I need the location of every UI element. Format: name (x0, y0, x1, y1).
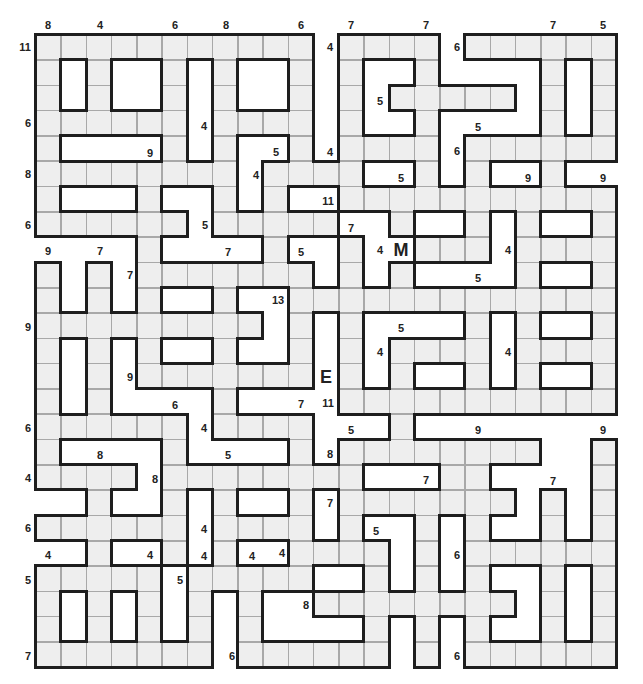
grid-cell[interactable] (465, 389, 491, 415)
grid-cell[interactable] (591, 35, 617, 61)
grid-cell[interactable] (36, 414, 62, 440)
grid-cell[interactable] (238, 465, 264, 491)
grid-cell[interactable] (288, 490, 314, 516)
grid-cell[interactable] (465, 363, 491, 389)
grid-cell[interactable] (212, 186, 238, 212)
grid-cell[interactable] (339, 642, 365, 668)
grid-cell[interactable] (187, 591, 213, 617)
grid-cell[interactable] (591, 591, 617, 617)
grid-cell[interactable] (440, 591, 466, 617)
grid-cell[interactable] (162, 465, 188, 491)
grid-cell[interactable] (187, 566, 213, 592)
grid-cell[interactable] (591, 110, 617, 136)
grid-cell[interactable] (440, 288, 466, 314)
grid-cell[interactable] (339, 35, 365, 61)
grid-cell[interactable] (414, 389, 440, 415)
grid-cell[interactable] (389, 35, 415, 61)
grid-cell[interactable] (414, 60, 440, 86)
grid-cell[interactable] (263, 237, 289, 263)
grid-cell[interactable] (339, 591, 365, 617)
grid-cell[interactable] (263, 262, 289, 288)
grid-cell[interactable] (86, 566, 112, 592)
grid-cell[interactable] (389, 338, 415, 364)
grid-cell[interactable] (162, 262, 188, 288)
grid-cell[interactable] (288, 465, 314, 491)
grid-cell[interactable] (263, 212, 289, 238)
grid-cell[interactable] (591, 490, 617, 516)
grid-cell[interactable] (465, 136, 491, 162)
grid-cell[interactable] (440, 439, 466, 465)
grid-cell[interactable] (238, 515, 264, 541)
grid-cell[interactable] (591, 262, 617, 288)
grid-cell[interactable] (86, 161, 112, 187)
grid-cell[interactable] (566, 237, 592, 263)
grid-cell[interactable] (339, 237, 365, 263)
grid-cell[interactable] (389, 186, 415, 212)
grid-cell[interactable] (212, 414, 238, 440)
grid-cell[interactable] (162, 363, 188, 389)
grid-cell[interactable] (490, 541, 516, 567)
grid-cell[interactable] (212, 338, 238, 364)
grid-cell[interactable] (591, 237, 617, 263)
grid-cell[interactable] (541, 591, 567, 617)
grid-cell[interactable] (364, 288, 390, 314)
grid-cell[interactable] (490, 439, 516, 465)
grid-cell[interactable] (36, 338, 62, 364)
grid-cell[interactable] (389, 414, 415, 440)
grid-cell[interactable] (339, 262, 365, 288)
grid-cell[interactable] (86, 313, 112, 339)
grid-cell[interactable] (389, 439, 415, 465)
grid-cell[interactable] (339, 515, 365, 541)
grid-cell[interactable] (515, 262, 541, 288)
grid-cell[interactable] (313, 541, 339, 567)
grid-cell[interactable] (162, 515, 188, 541)
grid-cell[interactable] (86, 110, 112, 136)
grid-cell[interactable] (187, 262, 213, 288)
grid-cell[interactable] (591, 515, 617, 541)
grid-cell[interactable] (414, 85, 440, 111)
grid-cell[interactable] (162, 642, 188, 668)
grid-cell[interactable] (86, 642, 112, 668)
grid-cell[interactable] (339, 465, 365, 491)
grid-cell[interactable] (541, 237, 567, 263)
grid-cell[interactable] (238, 212, 264, 238)
grid-cell[interactable] (440, 490, 466, 516)
grid-cell[interactable] (414, 591, 440, 617)
grid-cell[interactable] (339, 288, 365, 314)
grid-cell[interactable] (465, 161, 491, 187)
grid-cell[interactable] (440, 338, 466, 364)
grid-cell[interactable] (212, 35, 238, 61)
grid-cell[interactable] (86, 515, 112, 541)
grid-cell[interactable] (414, 237, 440, 263)
grid-cell[interactable] (86, 541, 112, 567)
grid-cell[interactable] (465, 465, 491, 491)
grid-cell[interactable] (36, 313, 62, 339)
grid-cell[interactable] (364, 566, 390, 592)
grid-cell[interactable] (339, 389, 365, 415)
grid-cell[interactable] (591, 85, 617, 111)
grid-cell[interactable] (36, 161, 62, 187)
grid-cell[interactable] (490, 35, 516, 61)
grid-cell[interactable] (465, 212, 491, 238)
grid-cell[interactable] (212, 85, 238, 111)
grid-cell[interactable] (364, 439, 390, 465)
grid-cell[interactable] (36, 110, 62, 136)
grid-cell[interactable] (212, 288, 238, 314)
grid-cell[interactable] (414, 616, 440, 642)
grid-cell[interactable] (86, 262, 112, 288)
grid-cell[interactable] (288, 566, 314, 592)
grid-cell[interactable] (465, 35, 491, 61)
grid-cell[interactable] (238, 566, 264, 592)
grid-cell[interactable] (566, 288, 592, 314)
grid-cell[interactable] (212, 566, 238, 592)
grid-cell[interactable] (541, 338, 567, 364)
grid-cell[interactable] (36, 591, 62, 617)
grid-cell[interactable] (288, 338, 314, 364)
grid-cell[interactable] (86, 414, 112, 440)
grid-cell[interactable] (541, 616, 567, 642)
grid-cell[interactable] (61, 465, 87, 491)
grid-cell[interactable] (238, 414, 264, 440)
grid-cell[interactable] (137, 212, 163, 238)
grid-cell[interactable] (566, 338, 592, 364)
grid-cell[interactable] (288, 110, 314, 136)
